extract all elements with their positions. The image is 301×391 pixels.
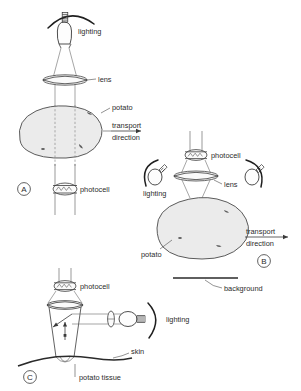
potato-shape-b <box>157 198 249 259</box>
beam-lower-right-b <box>202 180 210 198</box>
panel-a: lighting lens potato <box>18 13 142 216</box>
lamp-icon <box>108 303 156 338</box>
beam-lower-left-b <box>182 180 190 198</box>
transport-label-b-1: transport <box>246 227 275 236</box>
panel-b: photocell lens lighting <box>141 131 288 293</box>
transport-label-b-2: direction <box>246 239 274 248</box>
beam-left-a <box>53 48 61 78</box>
panel-marker-b-text: B <box>261 257 266 266</box>
panel-marker-a-text: A <box>21 185 27 194</box>
panel-marker-a: A <box>18 183 31 196</box>
panel-c: photocell <box>18 268 189 383</box>
potato-label-b: potato <box>141 250 162 259</box>
light-path-arrows <box>53 314 72 340</box>
lens-leader-b <box>214 180 222 184</box>
lens-label-b: lens <box>224 180 238 189</box>
skin-label: skin <box>131 347 144 356</box>
photocell-label-a: photocell <box>80 185 110 194</box>
lens-icon <box>43 75 87 85</box>
beam-right-a <box>69 48 77 78</box>
lighting-label-c: lighting <box>166 315 189 324</box>
potato-tissue-label: potato tissue <box>79 373 121 382</box>
photocell-icon <box>185 150 207 161</box>
lens-leader-a <box>87 79 96 80</box>
lamp-icon <box>245 160 264 187</box>
skin-leader <box>113 353 129 358</box>
lamp-icon <box>145 160 168 186</box>
panel-marker-b: B <box>258 255 271 268</box>
panel-marker-c: C <box>24 371 37 384</box>
potato-leader-a <box>101 108 110 113</box>
photocell-label-c: photocell <box>80 282 110 291</box>
lighting-label-b: lighting <box>143 189 166 198</box>
transport-label-a-2: direction <box>112 133 140 142</box>
background-label: background <box>224 284 263 293</box>
potato-shape-a <box>19 106 102 158</box>
photocell-icon <box>53 183 77 195</box>
lens-icon <box>174 171 218 181</box>
photocell-label-b: photocell <box>211 151 241 160</box>
lens-label-a: lens <box>98 75 112 84</box>
figure-canvas: lighting lens potato <box>0 0 301 391</box>
photocell-icon <box>54 281 76 292</box>
panel-marker-c-text: C <box>27 373 33 382</box>
transport-label-a-1: transport <box>112 121 141 130</box>
lens-icon <box>47 301 83 310</box>
background-leader <box>205 280 222 288</box>
potato-label-a: potato <box>112 103 133 112</box>
lighting-label-a: lighting <box>78 27 101 36</box>
